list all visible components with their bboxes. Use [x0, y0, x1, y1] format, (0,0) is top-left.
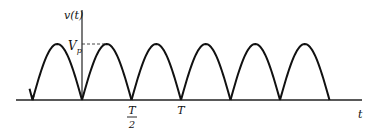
wave-arch — [82, 44, 132, 100]
peak-label-sub: p — [77, 46, 82, 55]
rectified-sine-chart: v(t) Vp T 2 T t — [0, 0, 378, 132]
x-tick-label-half-period-den: 2 — [128, 119, 135, 130]
wave-arch — [280, 44, 330, 100]
x-axis-label: t — [358, 108, 363, 121]
peak-label: Vp — [68, 39, 82, 55]
y-axis-label: v(t) — [64, 9, 83, 22]
wave-arch — [231, 44, 281, 100]
wave-arch — [181, 44, 231, 100]
x-tick-label-period: T — [177, 104, 186, 117]
x-tick-label-half-period-num: T — [128, 104, 137, 117]
wave-arch — [132, 44, 182, 100]
